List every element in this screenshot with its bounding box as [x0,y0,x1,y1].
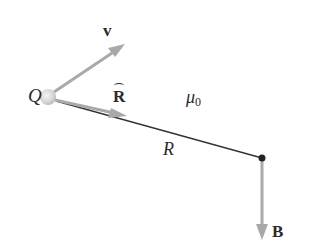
charge-label: Q [28,86,42,105]
permeability-subscript: 0 [195,95,201,109]
distance-label: R [163,140,174,158]
field-point [259,155,266,162]
magnetic-field-diagram: Q v R μ0 R B [0,0,309,249]
unit-vector-hat: R [113,88,125,105]
diagram-graphics [0,0,309,249]
field-arrow [256,159,268,240]
distance-line [56,101,262,158]
unit-vector-label: R [113,88,125,105]
velocity-label: v [103,22,112,39]
permeability-symbol: μ [186,87,195,107]
field-label: B [272,223,283,240]
permeability-label: μ0 [186,88,201,108]
charge-sphere [40,89,56,105]
